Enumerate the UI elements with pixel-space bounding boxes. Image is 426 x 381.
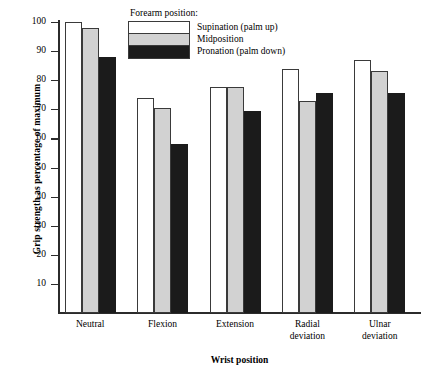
bar xyxy=(371,71,388,313)
y-axis-tick-label: 20 xyxy=(6,250,46,260)
bar xyxy=(137,98,154,313)
y-axis-tick-label: 30 xyxy=(6,221,46,231)
bar xyxy=(299,101,316,313)
y-axis-tick xyxy=(51,226,58,227)
bar xyxy=(99,57,116,313)
x-axis-tick-label-line: Ulnar xyxy=(330,319,426,331)
legend-title: Forearm position: xyxy=(128,8,285,18)
y-axis-tick xyxy=(51,80,58,81)
bar xyxy=(82,28,99,313)
legend-label-midposition: Midposition xyxy=(197,33,285,45)
y-axis-tick-label: 80 xyxy=(6,75,46,85)
bar xyxy=(244,111,261,313)
x-axis-title: Wrist position xyxy=(58,355,421,365)
bar xyxy=(282,69,299,313)
y-axis-tick xyxy=(51,255,58,256)
y-axis-tick xyxy=(51,22,58,23)
bar xyxy=(354,60,371,313)
bar-group xyxy=(282,22,333,313)
bar xyxy=(227,87,244,313)
x-axis-tick-label-line: deviation xyxy=(330,331,426,343)
y-axis-tick xyxy=(51,168,58,169)
bar xyxy=(388,93,405,313)
bar-group xyxy=(354,22,405,313)
y-axis-tick-label: 40 xyxy=(6,192,46,202)
bar-group xyxy=(65,22,116,313)
y-axis-tick xyxy=(51,109,58,110)
y-axis-tick-label: 10 xyxy=(6,279,46,289)
y-axis-tick-label: 60 xyxy=(6,133,46,143)
legend-body: Supination (palm up) Midposition Pronati… xyxy=(128,21,285,59)
y-axis-tick xyxy=(51,284,58,285)
y-axis-tick xyxy=(51,51,58,52)
y-axis-tick xyxy=(51,197,58,198)
legend: Forearm position: Supination (palm up) M… xyxy=(128,8,285,59)
bar-group xyxy=(137,22,188,313)
legend-swatch-supination xyxy=(129,22,189,34)
grip-strength-bar-chart: Grip strength as percentage of maximum 1… xyxy=(0,0,426,381)
plot-bars-layer xyxy=(58,22,420,313)
y-axis-tick-label: 50 xyxy=(6,163,46,173)
legend-label-pronation: Pronation (palm down) xyxy=(197,45,285,57)
bar xyxy=(65,22,82,313)
legend-label-stack: Supination (palm up) Midposition Pronati… xyxy=(197,21,285,57)
legend-label-supination: Supination (palm up) xyxy=(197,21,285,33)
y-axis-tick-label: 70 xyxy=(6,104,46,114)
legend-swatch-midposition xyxy=(129,34,189,46)
bar-group xyxy=(210,22,261,313)
y-axis-tick-label: 100 xyxy=(6,17,46,27)
x-axis-tick-label: Ulnardeviation xyxy=(330,319,426,342)
bar xyxy=(210,87,227,313)
legend-swatch-stack xyxy=(128,21,190,59)
bar xyxy=(171,144,188,313)
bar xyxy=(154,108,171,313)
y-axis-tick xyxy=(51,138,58,139)
bar xyxy=(316,93,333,313)
y-axis-tick-label: 90 xyxy=(6,46,46,56)
legend-swatch-pronation xyxy=(129,46,189,58)
